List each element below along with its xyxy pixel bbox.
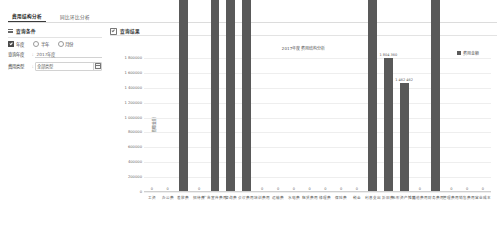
bar-slot[interactable]: 1 804 360折旧费 xyxy=(380,58,396,192)
divider xyxy=(8,37,102,38)
period-option-month-label: 月份 xyxy=(65,41,73,47)
x-axis-tick-label: 财务费用 xyxy=(428,195,444,200)
bar-slot[interactable]: 0其他费用 xyxy=(412,58,428,192)
x-axis-tick-label: 工资 xyxy=(148,195,156,200)
radio-unchecked-icon[interactable] xyxy=(58,41,64,47)
y-axis-tick-label: 1 600000 xyxy=(124,71,142,75)
x-axis-tick-label: 税金 xyxy=(353,195,361,200)
bar-slot[interactable]: 0租赁费用 xyxy=(302,58,318,192)
y-axis-tick-label: 600000 xyxy=(128,145,142,149)
bar[interactable]: 54 961 340 xyxy=(211,0,220,192)
bar-chart: 2017年度费用结构分析 费用金额 费用金额 1 8000001 6000001… xyxy=(110,36,497,218)
bar[interactable]: 716 887 151 xyxy=(242,0,251,192)
y-axis-tick-label: 200000 xyxy=(128,175,142,179)
tab-yoy-mom[interactable]: 同比环比分析 xyxy=(56,13,94,22)
bar[interactable]: 447 600 780 xyxy=(226,0,235,192)
cost-type-separator: : xyxy=(32,64,33,69)
chart-result-panel: 查询结果 2017年度费用结构分析 费用金额 费用金额 1 8000001 60… xyxy=(110,27,497,219)
x-axis-tick-label: 保险费 xyxy=(335,195,347,200)
query-year-label: 查询年度 xyxy=(8,51,30,57)
x-axis-tick-label: 租赁费用 xyxy=(302,195,318,200)
x-axis-tick-label: 差旅费 xyxy=(177,195,189,200)
bar-series: 0工资0办公费487 331 168差旅费0招待费54 961 340广告宣传费… xyxy=(144,58,491,192)
y-axis-tick-label: 1 400000 xyxy=(124,86,142,90)
bar-slot[interactable]: 447 600 780咨询费 xyxy=(223,58,239,192)
bar-value-label: 1 462 462 xyxy=(395,78,413,82)
bar-slot[interactable]: 1 462 462无形资产摊销 xyxy=(396,58,412,192)
tab-bar: 费用结构分析 同比环比分析 xyxy=(8,9,497,23)
bar[interactable]: 52 942 880 xyxy=(368,0,377,192)
bar-slot[interactable]: 52 942 880利息支出 xyxy=(365,58,381,192)
bar-slot[interactable]: 0销售费用 xyxy=(459,58,475,192)
period-option-halfyear[interactable]: 半年 xyxy=(33,41,49,47)
x-axis-tick-label: 修理费 xyxy=(319,195,331,200)
bar[interactable]: 1 462 462 xyxy=(400,83,409,192)
bar-slot[interactable]: 0保险费 xyxy=(333,58,349,192)
query-year-input[interactable]: 2017年度 xyxy=(35,50,102,58)
bar-slot[interactable]: 0工资 xyxy=(144,58,160,192)
bar-value-label: 0 xyxy=(293,187,295,191)
x-axis-tick-label: 运输费 xyxy=(272,195,284,200)
query-panel-header: 查询条件 xyxy=(8,27,102,35)
query-panel-title: 查询条件 xyxy=(16,28,36,34)
bar-value-label: 0 xyxy=(167,187,169,191)
x-axis-tick-label: 会议费用 xyxy=(238,195,254,200)
chart-legend[interactable]: 费用金额 xyxy=(457,50,479,56)
legend-label: 费用金额 xyxy=(463,50,479,56)
period-option-year[interactable]: 年度 xyxy=(8,41,24,47)
bar-slot[interactable]: 0修理费 xyxy=(317,58,333,192)
bar-value-label: 0 xyxy=(419,187,421,191)
gridline xyxy=(144,192,491,193)
bar-value-label: 0 xyxy=(450,187,452,191)
费用结构分析-dashboard: 费用结构分析 同比环比分析 查询条件 年度 半年 月份 xyxy=(0,0,503,228)
x-axis-tick-label: 利息支出 xyxy=(365,195,381,200)
x-axis-tick-label: 管理费用 xyxy=(443,195,459,200)
bar-value-label: 0 xyxy=(482,187,484,191)
cost-type-select[interactable]: 全部类型 xyxy=(35,62,102,72)
bar-value-label: 0 xyxy=(198,187,200,191)
bar-slot[interactable]: 0营业成本 xyxy=(475,58,491,192)
bar-slot[interactable]: 487 331 168差旅费 xyxy=(176,58,192,192)
period-option-month[interactable]: 月份 xyxy=(58,41,74,47)
checkbox-checked-icon[interactable] xyxy=(8,41,14,47)
bar-slot[interactable]: 0培训费用 xyxy=(254,58,270,192)
bar[interactable]: 487 331 168 xyxy=(179,0,188,192)
bar-slot[interactable]: 0税金 xyxy=(349,58,365,192)
x-axis-tick-label: 培训费用 xyxy=(254,195,270,200)
cost-type-label: 费用类型 xyxy=(8,63,30,69)
calendar-icon[interactable] xyxy=(93,63,101,71)
bar-slot[interactable]: 0招待费 xyxy=(191,58,207,192)
tab-cost-structure[interactable]: 费用结构分析 xyxy=(8,12,46,22)
bar-value-label: 0 xyxy=(340,187,342,191)
bar-value-label: 0 xyxy=(308,187,310,191)
query-conditions-panel: 查询条件 年度 半年 月份 查询年度 : xyxy=(8,27,102,77)
x-axis-tick-label: 营业成本 xyxy=(475,195,491,200)
bar-value-label: 0 xyxy=(277,187,279,191)
bar-value-label: 1 804 360 xyxy=(379,53,397,57)
bar[interactable]: 1 804 360 xyxy=(384,58,393,192)
bar-slot[interactable]: 0运输费 xyxy=(270,58,286,192)
bar-slot[interactable]: 716 887 151会议费用 xyxy=(239,58,255,192)
bar-slot[interactable]: 54 961 340广告宣传费用 xyxy=(207,58,223,192)
bar-slot[interactable]: 1 627 234 298财务费用 xyxy=(428,58,444,192)
plot-area: 费用金额 1 8000001 6000001 4000001 2000001 0… xyxy=(144,58,491,192)
x-axis-tick-label: 广告宣传费用 xyxy=(203,195,227,200)
cost-type-row: 费用类型 : 全部类型 xyxy=(8,62,102,72)
list-icon xyxy=(8,29,13,34)
x-axis-tick-label: 办公费 xyxy=(162,195,174,200)
x-axis-tick-label: 咨询费 xyxy=(225,195,237,200)
query-year-separator: : xyxy=(32,52,33,57)
query-form: 年度 半年 月份 查询年度 : 2017年度 费用类型 : xyxy=(8,41,102,72)
bar-slot[interactable]: 0办公费 xyxy=(160,58,176,192)
y-axis-tick-label: 1 200000 xyxy=(124,101,142,105)
bar[interactable]: 1 627 234 298 xyxy=(431,0,440,192)
bar-slot[interactable]: 0管理费用 xyxy=(444,58,460,192)
y-axis-tick-label: 1 000000 xyxy=(124,116,142,120)
period-option-year-label: 年度 xyxy=(16,41,24,47)
x-axis-tick-label: 水电费 xyxy=(288,195,300,200)
y-axis-tick-label: 1 800000 xyxy=(124,56,142,60)
radio-unchecked-icon[interactable] xyxy=(33,41,39,47)
bar-slot[interactable]: 0水电费 xyxy=(286,58,302,192)
x-axis-tick-label: 其他费用 xyxy=(412,195,428,200)
chart-panel-title: 查询结果 xyxy=(120,28,140,34)
